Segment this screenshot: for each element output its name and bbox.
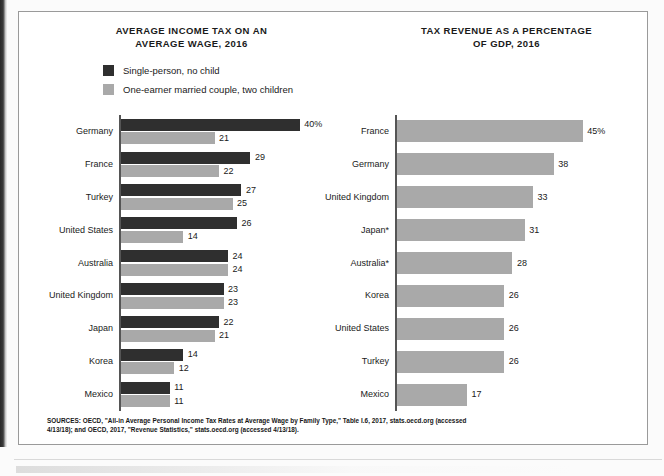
bar xyxy=(397,120,583,142)
bar xyxy=(121,231,184,243)
bar-group: Mexico17 xyxy=(395,384,631,406)
bar-value-label: 29 xyxy=(255,153,265,162)
bar-group: Japan*31 xyxy=(395,219,631,241)
figure-frame: AVERAGE INCOME TAX ON AN AVERAGE WAGE, 2… xyxy=(18,11,648,445)
left-chart-plot-area: Germany40%21France2922Turkey2725United S… xyxy=(119,115,351,411)
bar-value-label: 14 xyxy=(188,232,198,241)
category-label: Turkey xyxy=(362,357,389,366)
category-label: France xyxy=(85,160,113,169)
bar xyxy=(397,318,505,340)
right-chart-panel: TAX REVENUE AS A PERCENTAGE OF GDP, 2016… xyxy=(364,12,649,444)
bar-value-label: 45% xyxy=(587,127,605,136)
bar xyxy=(397,252,513,274)
bar-value-label: 26 xyxy=(509,291,519,300)
category-label: Japan xyxy=(88,324,113,333)
right-chart-title-line1: TAX REVENUE AS A PERCENTAGE xyxy=(364,24,649,37)
bar-group: Korea26 xyxy=(395,285,631,307)
left-chart-title-line1: AVERAGE INCOME TAX ON AN xyxy=(19,24,364,37)
bar-group: Mexico1111 xyxy=(119,382,351,408)
legend-item-single-person: Single-person, no child xyxy=(103,65,293,76)
bar-value-label: 26 xyxy=(241,219,251,228)
scan-bottom-artifact xyxy=(16,466,576,473)
bar-group: United States26 xyxy=(395,318,631,340)
bar-value-label: 40% xyxy=(304,120,322,129)
category-label: United States xyxy=(59,226,113,235)
right-chart-title-line2: OF GDP, 2016 xyxy=(364,37,649,50)
bar-value-label: 31 xyxy=(529,226,539,235)
bar xyxy=(397,285,505,307)
bar xyxy=(121,119,300,131)
bar-value-label: 22 xyxy=(224,318,234,327)
bar xyxy=(121,283,224,295)
bar-value-label: 23 xyxy=(228,285,238,294)
bar-value-label: 27 xyxy=(246,186,256,195)
bar xyxy=(121,330,215,342)
category-label: France xyxy=(361,127,389,136)
bar-value-label: 38 xyxy=(558,160,568,169)
bar-value-label: 28 xyxy=(517,259,527,268)
bar-value-label: 26 xyxy=(509,324,519,333)
bar-value-label: 25 xyxy=(237,199,247,208)
category-label: Australia xyxy=(78,259,113,268)
bar xyxy=(121,382,170,394)
bar-value-label: 11 xyxy=(174,397,183,406)
right-chart-title: TAX REVENUE AS A PERCENTAGE OF GDP, 2016 xyxy=(364,24,649,50)
bar xyxy=(121,152,251,164)
category-label: United Kingdom xyxy=(49,291,113,300)
bar-group: Australia*28 xyxy=(395,252,631,274)
bar-value-label: 33 xyxy=(538,193,548,202)
sources-note: SOURCES: OECD, "All-in Average Personal … xyxy=(47,416,467,435)
bar-group: Turkey2725 xyxy=(119,184,351,210)
right-chart-plot-area: France45%Germany38United Kingdom33Japan*… xyxy=(395,115,631,411)
bar-value-label: 24 xyxy=(233,252,243,261)
bar-value-label: 23 xyxy=(228,298,238,307)
legend-label-married-couple: One-earner married couple, two children xyxy=(123,84,293,95)
bar-value-label: 12 xyxy=(179,364,189,373)
left-chart-title-line2: AVERAGE WAGE, 2016 xyxy=(19,37,364,50)
bar-value-label: 22 xyxy=(224,167,234,176)
bar-group: Australia2424 xyxy=(119,250,351,276)
bar-group: United Kingdom33 xyxy=(395,186,631,208)
bar xyxy=(121,250,229,262)
category-label: Mexico xyxy=(360,390,389,399)
chart-legend: Single-person, no child One-earner marri… xyxy=(103,65,293,103)
category-label: Germany xyxy=(352,160,389,169)
category-label: Australia* xyxy=(350,259,389,268)
bar-group: Germany40%21 xyxy=(119,119,351,145)
category-label: United Kingdom xyxy=(325,193,389,202)
bar xyxy=(121,362,175,374)
bar xyxy=(121,264,229,276)
category-label: Korea xyxy=(365,291,389,300)
legend-item-married-couple: One-earner married couple, two children xyxy=(103,84,293,95)
bar-value-label: 11 xyxy=(174,383,183,392)
legend-swatch-dark-icon xyxy=(103,65,114,76)
bar-group: Germany38 xyxy=(395,153,631,175)
bar xyxy=(397,186,534,208)
category-label: Japan* xyxy=(361,226,389,235)
category-label: United States xyxy=(335,324,389,333)
bar-value-label: 21 xyxy=(219,134,229,143)
bar xyxy=(121,198,233,210)
bar xyxy=(121,349,184,361)
bar xyxy=(121,395,170,407)
bar xyxy=(121,297,224,309)
bar-group: France45% xyxy=(395,120,631,142)
category-label: Turkey xyxy=(86,193,113,202)
bar-group: Turkey26 xyxy=(395,351,631,373)
bar xyxy=(121,132,215,144)
bar-group: Japan2221 xyxy=(119,316,351,342)
bar xyxy=(121,316,220,328)
bar xyxy=(397,351,505,373)
scan-edge-artifact xyxy=(0,0,7,447)
bar xyxy=(397,153,554,175)
bar xyxy=(121,184,242,196)
bar-value-label: 17 xyxy=(471,390,481,399)
category-label: Germany xyxy=(76,127,113,136)
bar xyxy=(121,165,220,177)
bar-value-label: 26 xyxy=(509,357,519,366)
bar-value-label: 14 xyxy=(188,350,198,359)
bar xyxy=(121,217,237,229)
legend-swatch-light-icon xyxy=(103,84,114,95)
bar-group: Korea1412 xyxy=(119,349,351,375)
bar xyxy=(397,219,525,241)
